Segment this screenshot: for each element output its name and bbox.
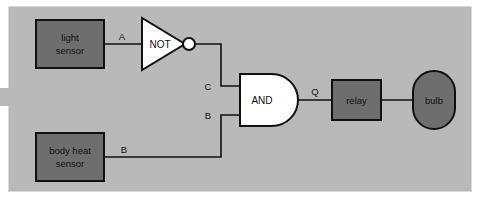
- light-sensor-component[interactable]: light sensor: [36, 20, 104, 68]
- circuit-svg: light sensor body heat sensor NOT AND re…: [0, 0, 480, 199]
- body-heat-sensor-label-line2: sensor: [56, 158, 85, 169]
- wire-label-c: C: [205, 81, 212, 92]
- wire-c-not-to-and: [193, 44, 240, 86]
- light-sensor-label-line1: light: [61, 32, 79, 43]
- wire-label-a: A: [119, 31, 126, 42]
- circuit-diagram-canvas: light sensor body heat sensor NOT AND re…: [0, 0, 480, 199]
- light-sensor-label-line2: sensor: [56, 45, 85, 56]
- bulb-component[interactable]: bulb: [413, 71, 455, 129]
- and-gate-component[interactable]: AND: [240, 74, 298, 126]
- wire-label-b-input: B: [121, 144, 127, 155]
- bulb-label: bulb: [425, 95, 443, 106]
- wire-label-q: Q: [311, 86, 318, 97]
- not-gate-component[interactable]: NOT: [142, 18, 195, 70]
- body-heat-sensor-component[interactable]: body heat sensor: [36, 133, 104, 181]
- not-gate-label: NOT: [149, 39, 170, 50]
- body-heat-sensor-label-line1: body heat: [49, 145, 91, 156]
- relay-label: relay: [346, 95, 367, 106]
- not-gate-inversion-bubble-icon: [183, 38, 195, 50]
- and-gate-label: AND: [251, 95, 272, 106]
- relay-component[interactable]: relay: [332, 80, 381, 120]
- wire-label-b-gate: B: [205, 110, 211, 121]
